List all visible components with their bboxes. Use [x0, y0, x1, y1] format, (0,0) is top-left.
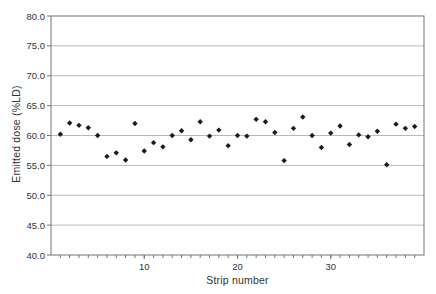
data-point: [375, 129, 380, 134]
data-point: [76, 123, 81, 128]
data-point: [132, 121, 137, 126]
data-point: [356, 132, 361, 137]
data-point: [403, 126, 408, 131]
data-point: [114, 150, 119, 155]
x-axis-title: Strip number: [51, 274, 424, 286]
data-point: [225, 143, 230, 148]
data-point: [216, 127, 221, 132]
x-tick-label: 20: [232, 261, 243, 272]
data-point: [384, 162, 389, 167]
y-tick-label: 50.0: [27, 190, 46, 201]
y-tick-label: 60.0: [27, 130, 46, 141]
y-tick-label: 45.0: [27, 220, 46, 231]
data-point: [319, 145, 324, 150]
data-point: [300, 114, 305, 119]
y-tick-label: 55.0: [27, 160, 46, 171]
data-point: [86, 125, 91, 130]
y-tick-label: 65.0: [27, 100, 46, 111]
data-point: [160, 144, 165, 149]
data-point: [123, 157, 128, 162]
data-point: [104, 154, 109, 159]
data-point: [291, 126, 296, 131]
data-point: [58, 132, 63, 137]
data-point: [179, 128, 184, 133]
data-point: [393, 121, 398, 126]
y-axis-title: Emitted dose (%LD): [10, 74, 22, 194]
data-point: [188, 137, 193, 142]
data-point: [67, 120, 72, 125]
data-point: [263, 119, 268, 124]
y-tick-label: 75.0: [27, 40, 46, 51]
data-point: [309, 133, 314, 138]
dose-uniformity-figure: 40.045.050.055.060.065.070.075.080.01020…: [0, 0, 436, 294]
data-point: [253, 117, 258, 122]
data-point: [170, 133, 175, 138]
y-tick-label: 80.0: [27, 11, 46, 22]
data-point: [151, 140, 156, 145]
y-tick-label: 40.0: [27, 250, 46, 261]
data-point: [412, 124, 417, 129]
data-point: [244, 133, 249, 138]
data-point: [95, 133, 100, 138]
data-point: [207, 133, 212, 138]
data-point: [347, 142, 352, 147]
y-tick-label: 70.0: [27, 70, 46, 81]
x-tick-label: 30: [325, 261, 336, 272]
data-point: [198, 119, 203, 124]
data-point: [142, 148, 147, 153]
data-point: [272, 130, 277, 135]
data-point: [281, 158, 286, 163]
data-point: [365, 134, 370, 139]
x-tick-label: 10: [139, 261, 150, 272]
data-point: [235, 133, 240, 138]
data-point: [337, 123, 342, 128]
scatter-plot-canvas: 40.045.050.055.060.065.070.075.080.01020…: [0, 0, 436, 294]
